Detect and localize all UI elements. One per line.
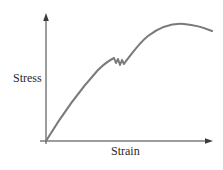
stress-strain-curve [46, 24, 212, 141]
y-axis-arrow-icon [43, 13, 49, 21]
x-axis-arrow-icon [205, 138, 213, 144]
y-axis-label: Stress [13, 72, 42, 84]
x-axis-label: Strain [111, 145, 140, 157]
